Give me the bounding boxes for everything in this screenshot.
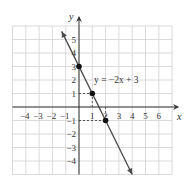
data-point	[90, 91, 96, 97]
x-axis-label: x	[176, 111, 182, 122]
x-tick-label: −4	[20, 111, 30, 121]
y-tick-label: −2	[66, 129, 76, 139]
tick-labels: −4−3−2−112345654321−1−2−3−4	[20, 35, 162, 167]
grid	[13, 26, 173, 175]
y-tick-label: 3	[72, 62, 77, 72]
y-tick-label: 1	[72, 89, 77, 99]
y-tick-label: 5	[72, 35, 77, 45]
x-tick-label: 5	[143, 111, 148, 121]
x-tick-label: 6	[157, 111, 162, 121]
x-tick-label: 1	[90, 111, 95, 121]
y-tick-label: −1	[66, 116, 76, 126]
x-tick-label: −3	[33, 111, 43, 121]
equation-label: y = −2x + 3	[94, 75, 139, 85]
y-axis-label: y	[68, 11, 74, 22]
x-tick-label: −2	[47, 111, 57, 121]
data-point	[76, 64, 82, 70]
y-tick-label: −3	[66, 143, 76, 153]
line-graph: −4−3−2−112345654321−1−2−3−4 y = −2x + 3 …	[0, 0, 194, 190]
y-tick-label: 2	[72, 75, 77, 85]
x-tick-label: 3	[117, 111, 122, 121]
y-tick-label: −4	[66, 156, 76, 166]
data-point	[103, 118, 109, 124]
x-tick-label: 4	[130, 111, 135, 121]
